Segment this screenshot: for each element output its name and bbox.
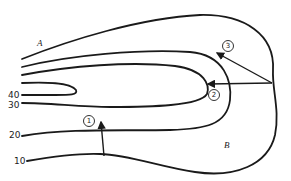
contour-label-40: 40 — [8, 91, 19, 100]
contour-label-30: 30 — [8, 101, 19, 110]
arrow-3 — [217, 53, 272, 83]
contour-label-20: 20 — [9, 131, 20, 140]
arrow-2 — [208, 83, 272, 84]
contour-label-10: 10 — [14, 157, 25, 166]
arrow-label-3: 3 — [222, 40, 234, 52]
region-label-a: A — [37, 39, 43, 48]
contour-diagram: A B 40 30 20 10 1 2 3 — [0, 0, 291, 181]
region-label-b: B — [224, 141, 230, 150]
contour-40 — [22, 83, 76, 95]
arrow-label-1: 1 — [83, 115, 95, 127]
contour-lines — [0, 0, 291, 181]
arrow-1 — [101, 122, 104, 156]
arrow-label-2: 2 — [208, 89, 220, 101]
contour-30 — [22, 64, 208, 107]
